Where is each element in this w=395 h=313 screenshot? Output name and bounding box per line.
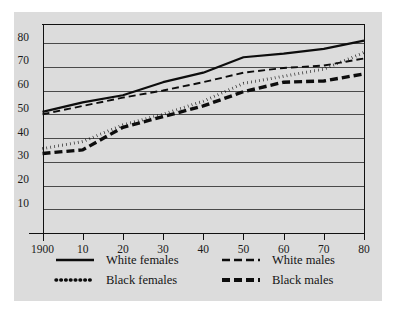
y-tick-label-50: 50	[18, 102, 30, 114]
y-tick-label-60: 60	[18, 78, 30, 90]
figure-panel: 1020304050607080 19001020304050607080 Wh…	[14, 12, 382, 301]
x-tick-label-10: 10	[77, 243, 89, 255]
chart-container: 1020304050607080 19001020304050607080 Wh…	[14, 12, 382, 301]
y-tick-label-10: 10	[18, 197, 30, 209]
x-tick-label-40: 40	[198, 243, 210, 255]
x-tick-label-80: 80	[358, 243, 370, 255]
life-expectancy-line-chart: 1020304050607080 19001020304050607080 Wh…	[14, 12, 382, 301]
x-tick-label-50: 50	[238, 243, 250, 255]
legend-label-white-males: White males	[272, 253, 335, 267]
legend-label-black-females: Black females	[106, 273, 177, 287]
x-tick-label-1900: 1900	[31, 243, 54, 255]
y-tick-label-40: 40	[18, 126, 30, 138]
legend-label-white-females: White females	[106, 253, 179, 267]
y-tick-label-30: 30	[18, 149, 30, 161]
legend-label-black-males: Black males	[272, 273, 334, 287]
y-tick-label-20: 20	[18, 173, 30, 185]
y-tick-label-80: 80	[18, 31, 30, 43]
y-tick-label-70: 70	[18, 54, 30, 66]
